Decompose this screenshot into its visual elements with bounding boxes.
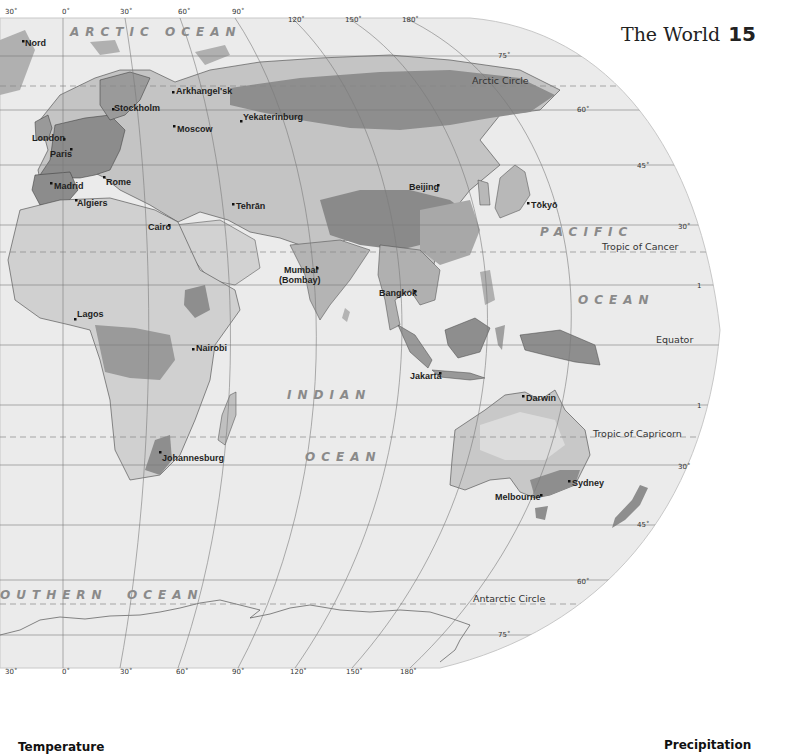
ocean-label-indian-2: OCEAN <box>305 450 382 464</box>
lon-tick: 90˚ <box>232 7 244 16</box>
city-label: Johannesburg <box>162 453 224 463</box>
city-dot <box>527 202 530 205</box>
tropic-of-capricorn-label: Tropic of Capricorn <box>592 428 682 439</box>
lon-tick: 120˚ <box>288 15 305 24</box>
city-label: Mumbai <box>284 265 318 275</box>
precipitation-legend-heading: Precipitation <box>664 738 751 752</box>
city-label: Darwin <box>526 393 556 403</box>
arctic-circle-label: Arctic Circle <box>472 75 529 86</box>
city-label: Tehrān <box>236 201 265 211</box>
lat-tick: 60˚ <box>577 105 589 114</box>
lon-tick: 30˚ <box>5 7 17 16</box>
page-title: The World15 <box>621 22 756 46</box>
city-dot <box>173 125 176 128</box>
city-label: Nord <box>25 38 46 48</box>
ocean-label-indian: INDIAN <box>287 388 371 402</box>
lon-tick: 180˚ <box>402 15 419 24</box>
lon-tick: 30˚ <box>5 667 17 676</box>
equator-label: Equator <box>656 334 693 345</box>
ocean-label-southern-2: OCEAN <box>127 588 204 602</box>
ocean-label-pacific-2: OCEAN <box>578 293 655 307</box>
city-label: Bangkok <box>379 288 418 298</box>
city-label: Nairobi <box>196 343 227 353</box>
city-label: Jakarta <box>410 371 443 381</box>
city-dot <box>172 91 175 94</box>
page-title-text: The World <box>621 23 720 45</box>
lat-tick: 30˚ <box>678 462 690 471</box>
city-label: (Bombay) <box>279 275 321 285</box>
city-label: Paris <box>50 149 72 159</box>
city-label: Sydney <box>572 478 604 488</box>
city-label: Arkhangel'sk <box>176 86 233 96</box>
lat-tick: 45˚ <box>637 161 649 170</box>
city-dot <box>522 395 525 398</box>
city-label: London <box>32 133 65 143</box>
lat-tick: 1 <box>697 282 701 290</box>
city-label: Beijing <box>409 182 439 192</box>
city-label: Rome <box>106 177 131 187</box>
city-label: Stockholm <box>114 103 160 113</box>
lon-tick: 0˚ <box>62 7 70 16</box>
city-label: Cairo <box>148 222 172 232</box>
lon-tick: 0˚ <box>62 667 70 676</box>
ocean-label-arctic: ARCTIC OCEAN <box>69 25 242 39</box>
ocean-label-pacific: PACIFIC <box>540 225 633 239</box>
lat-tick: 30˚ <box>678 222 690 231</box>
city-dot <box>568 480 571 483</box>
city-label: Moscow <box>177 124 214 134</box>
city-dot <box>232 203 235 206</box>
city-label: Algiers <box>77 198 108 208</box>
city-label: Lagos <box>77 309 104 319</box>
city-dot <box>50 182 53 185</box>
lon-tick: 150˚ <box>346 667 363 676</box>
lat-tick: 1 <box>697 402 701 410</box>
city-label: Madrid <box>54 181 84 191</box>
lon-tick: 180˚ <box>400 667 417 676</box>
lon-tick: 60˚ <box>178 7 190 16</box>
ocean-label-southern: OUTHERN <box>0 588 108 602</box>
antarctic-circle-label: Antarctic Circle <box>473 593 545 604</box>
lat-tick: 75˚ <box>498 51 510 60</box>
city-label: Yekaterinburg <box>243 112 303 122</box>
world-climate-map: 30˚ 0˚ 30˚ 60˚ 90˚ 120˚ 150˚ 180˚ 30˚ 0˚… <box>0 0 798 754</box>
city-label: Melbourne <box>495 492 541 502</box>
lon-tick: 30˚ <box>120 667 132 676</box>
city-label: Tōkyō <box>531 200 558 210</box>
lat-tick: 60˚ <box>577 577 589 586</box>
lon-tick: 60˚ <box>176 667 188 676</box>
temperature-legend-heading: Temperature <box>18 740 104 754</box>
page-number: 15 <box>728 22 756 46</box>
lon-tick: 90˚ <box>232 667 244 676</box>
lon-tick: 120˚ <box>290 667 307 676</box>
land-korea <box>478 180 490 205</box>
lon-tick: 150˚ <box>345 15 362 24</box>
lat-tick: 75˚ <box>498 630 510 639</box>
city-dot <box>192 348 195 351</box>
tropic-of-cancer-label: Tropic of Cancer <box>601 241 679 252</box>
lon-tick: 30˚ <box>120 7 132 16</box>
lat-tick: 45˚ <box>637 520 649 529</box>
